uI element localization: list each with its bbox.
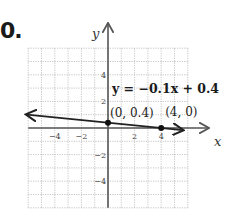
x-tick-label: −4 [49, 132, 61, 141]
x-tick-label: 2 [132, 132, 137, 141]
point-label: (4, 0) [165, 105, 197, 119]
equation-label: y = −0.1x + 0.4 [111, 81, 219, 96]
y-axis-label: y [91, 26, 100, 41]
point-marker [158, 125, 164, 131]
x-tick-label: 4 [159, 132, 164, 141]
x-axis-label: x [214, 134, 222, 149]
x-tick-label: −2 [76, 132, 88, 141]
y-tick-label: 2 [101, 97, 106, 106]
point-marker [105, 120, 111, 126]
y-tick-label: 4 [101, 71, 106, 80]
y-tick-label: −2 [94, 151, 106, 160]
coordinate-plane: −4−22442−2−4 (0, 0.4)(4, 0) x y y = −0.1… [0, 0, 238, 216]
y-tick-label: −4 [94, 177, 106, 186]
point-label: (0, 0.4) [110, 106, 154, 120]
